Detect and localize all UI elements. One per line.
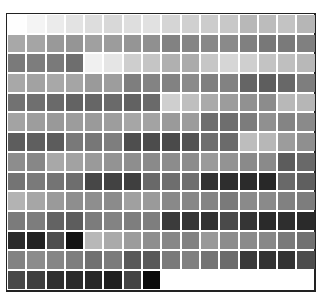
swatch-cell (278, 94, 295, 112)
swatch-cell (297, 113, 314, 131)
swatch-cell (278, 251, 295, 269)
swatch-cell (124, 74, 141, 92)
swatch-cell (85, 15, 102, 33)
swatch-cell (240, 232, 257, 250)
swatch-cell (85, 192, 102, 210)
swatch-cell (240, 54, 257, 72)
swatch-cell (27, 35, 44, 53)
swatch-cell (220, 192, 237, 210)
swatch-cell (143, 113, 160, 131)
swatch-cell (278, 173, 295, 191)
swatch-cell (8, 94, 25, 112)
swatch-cell (47, 232, 64, 250)
swatch-cell (278, 15, 295, 33)
swatch-cell (259, 15, 276, 33)
swatch-cell (104, 94, 121, 112)
swatch-cell (104, 192, 121, 210)
swatch-cell (8, 212, 25, 230)
swatch-cell (201, 232, 218, 250)
swatch-cell (85, 271, 102, 289)
swatch-cell (143, 15, 160, 33)
swatch-cell (27, 153, 44, 171)
swatch-cell (27, 271, 44, 289)
swatch-cell (297, 251, 314, 269)
swatch-cell (162, 35, 179, 53)
swatch-cell (104, 173, 121, 191)
swatch-cell (201, 15, 218, 33)
swatch-cell (143, 133, 160, 151)
swatch-cell (162, 192, 179, 210)
swatch-cell (104, 54, 121, 72)
swatch-cell (27, 74, 44, 92)
swatch-cell (297, 35, 314, 53)
swatch-cell (85, 113, 102, 131)
swatch-cell (66, 251, 83, 269)
swatch-cell (182, 173, 199, 191)
swatch-cell (259, 173, 276, 191)
swatch-cell (220, 212, 237, 230)
swatch-cell (259, 192, 276, 210)
swatch-cell (201, 74, 218, 92)
swatch-cell (124, 94, 141, 112)
swatch-cell (297, 192, 314, 210)
swatch-cell (124, 35, 141, 53)
swatch-cell (201, 212, 218, 230)
swatch-cell (124, 232, 141, 250)
swatch-cell (47, 15, 64, 33)
swatch-cell (240, 173, 257, 191)
swatch-cell (143, 271, 160, 289)
swatch-cell (278, 74, 295, 92)
swatch-cell (297, 212, 314, 230)
swatch-cell (66, 212, 83, 230)
swatch-cell (220, 173, 237, 191)
swatch-cell (240, 153, 257, 171)
swatch-cell (66, 153, 83, 171)
swatch-cell (182, 54, 199, 72)
swatch-cell (182, 35, 199, 53)
swatch-cell (66, 35, 83, 53)
swatch-cell (8, 15, 25, 33)
swatch-cell (220, 15, 237, 33)
swatch-cell (104, 74, 121, 92)
swatch-cell (66, 271, 83, 289)
swatch-cell (66, 192, 83, 210)
swatch-cell (27, 192, 44, 210)
swatch-cell (47, 173, 64, 191)
swatch-cell (66, 94, 83, 112)
swatch-cell (297, 173, 314, 191)
swatch-cell (66, 74, 83, 92)
swatch-cell (259, 153, 276, 171)
swatch-cell (124, 113, 141, 131)
swatch-cell (66, 15, 83, 33)
swatch-cell (143, 173, 160, 191)
swatch-cell (8, 232, 25, 250)
swatch-cell (104, 15, 121, 33)
swatch-cell (297, 94, 314, 112)
swatch-cell (143, 74, 160, 92)
swatch-cell (259, 54, 276, 72)
swatch-cell (240, 35, 257, 53)
swatch-cell (201, 192, 218, 210)
swatch-cell (182, 232, 199, 250)
swatch-cell (162, 251, 179, 269)
swatch-cell (297, 232, 314, 250)
swatch-cell (182, 251, 199, 269)
swatch-cell (240, 15, 257, 33)
swatch-cell (278, 113, 295, 131)
swatch-cell (278, 212, 295, 230)
swatch-cell (124, 54, 141, 72)
swatch-cell (162, 113, 179, 131)
swatch-cell (182, 15, 199, 33)
swatch-cell (104, 271, 121, 289)
swatch-cell (182, 113, 199, 131)
swatch-cell (220, 153, 237, 171)
swatch-cell (85, 173, 102, 191)
swatch-cell (240, 94, 257, 112)
swatch-cell (143, 35, 160, 53)
swatch-cell (8, 251, 25, 269)
swatch-cell (104, 251, 121, 269)
swatch-cell (259, 94, 276, 112)
swatch-cell (104, 232, 121, 250)
swatch-cell (8, 192, 25, 210)
swatch-cell (201, 173, 218, 191)
